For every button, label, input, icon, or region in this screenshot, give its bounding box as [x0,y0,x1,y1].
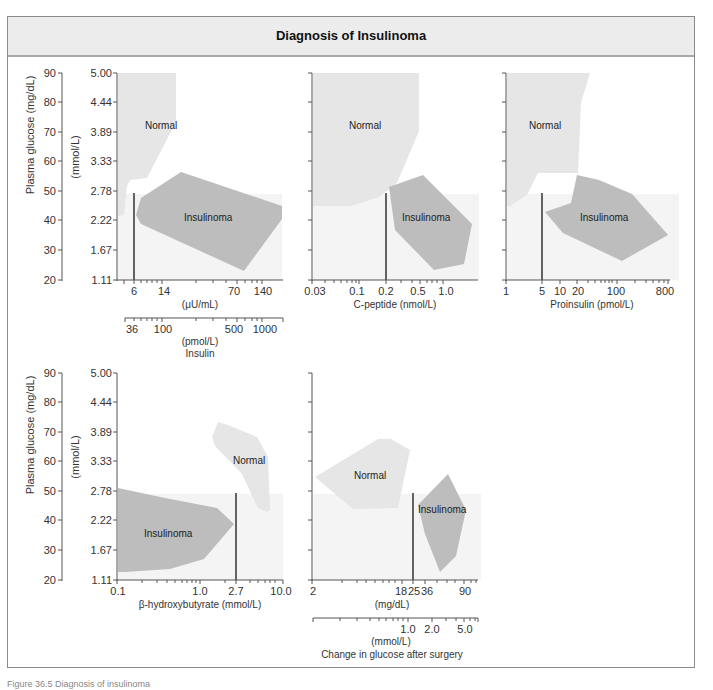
svg-text:1.11: 1.11 [91,574,112,586]
svg-text:Insulinoma: Insulinoma [418,504,467,515]
svg-text:2.7: 2.7 [228,585,243,597]
svg-text:Normal: Normal [233,455,265,466]
svg-text:1.67: 1.67 [91,244,112,256]
svg-text:1.0: 1.0 [438,285,453,297]
svg-text:20: 20 [572,285,584,297]
svg-text:1000: 1000 [253,323,277,335]
svg-text:0.5: 0.5 [410,285,425,297]
svg-text:Insulinoma: Insulinoma [402,212,451,223]
svg-text:80: 80 [44,96,56,108]
svg-text:2: 2 [310,585,316,597]
svg-text:2.78: 2.78 [91,485,112,497]
svg-text:1.0: 1.0 [400,623,415,635]
svg-text:60: 60 [44,155,56,167]
svg-text:3.89: 3.89 [91,126,112,138]
svg-text:0.1: 0.1 [349,285,364,297]
svg-text:2.0: 2.0 [424,623,439,635]
svg-text:2.22: 2.22 [91,514,112,526]
svg-text:Insulinoma: Insulinoma [184,212,233,223]
svg-text:90: 90 [44,67,56,79]
panel-cpeptide: Normal Insulinoma 0.03 0.1 0.2 0.5 1.0 [304,73,479,310]
svg-text:500: 500 [225,323,243,335]
svg-text:(mmol/L): (mmol/L) [69,435,81,478]
svg-text:1.11: 1.11 [91,274,112,286]
svg-text:10.0: 10.0 [270,585,291,597]
svg-text:70: 70 [44,426,56,438]
svg-text:Insulinoma: Insulinoma [580,212,629,223]
svg-text:Normal: Normal [354,470,386,481]
panel-proinsulin: Normal Insulinoma 1 5 10 20 100 [502,73,679,310]
svg-text:70: 70 [44,126,56,138]
svg-text:5.00: 5.00 [91,367,112,379]
svg-text:Plasma glucose (mg/dL): Plasma glucose (mg/dL) [24,376,36,495]
svg-text:(μU/mL): (μU/mL) [182,299,218,310]
svg-text:Normal: Normal [529,120,561,131]
svg-text:20: 20 [44,574,56,586]
y-axis-label-mgdl: Plasma glucose (mg/dL) [24,76,36,195]
svg-text:140: 140 [254,285,272,297]
svg-text:3.33: 3.33 [91,155,112,167]
svg-text:1.67: 1.67 [91,544,112,556]
svg-text:5: 5 [539,285,545,297]
svg-text:2.78: 2.78 [91,185,112,197]
svg-text:100: 100 [607,285,625,297]
svg-text:C-peptide (nmol/L): C-peptide (nmol/L) [354,299,437,310]
panel-insulin: Normal Insulinoma 6 14 70 140 (μ [113,73,283,359]
svg-text:14: 14 [158,285,170,297]
svg-text:4.44: 4.44 [91,396,112,408]
svg-text:18: 18 [395,585,407,597]
svg-text:Normal: Normal [145,120,177,131]
svg-text:1: 1 [503,285,509,297]
svg-text:50: 50 [44,185,56,197]
svg-text:4.44: 4.44 [91,96,112,108]
svg-text:3.89: 3.89 [91,426,112,438]
chart-canvas: Plasma glucose (mg/dL) 90 80 70 60 50 40… [0,0,713,690]
svg-text:(mg/dL): (mg/dL) [375,599,409,610]
svg-text:50: 50 [44,485,56,497]
svg-text:6: 6 [131,285,137,297]
svg-text:Normal: Normal [349,120,381,131]
svg-text:β-hydroxybutyrate (mmol/L): β-hydroxybutyrate (mmol/L) [139,599,261,610]
panel-glucose-change-title: Change in glucose after surgery [321,649,463,660]
svg-text:36: 36 [126,323,138,335]
svg-text:800: 800 [656,285,674,297]
svg-text:(mmol/L): (mmol/L) [371,636,410,647]
figure-caption: Figure 36.5 Diagnosis of insulinoma [7,679,707,690]
svg-text:0.1: 0.1 [110,585,125,597]
svg-text:100: 100 [154,323,172,335]
svg-text:Insulinoma: Insulinoma [144,528,193,539]
panel-bhb: Normal Insulinoma 0.1 1.0 2.7 10.0 [110,373,291,610]
y-axis-label-mmol: (mmol/L) [69,135,81,178]
svg-text:90: 90 [44,367,56,379]
y-axis-mmol-row2: (mmol/L) 5.00 4.44 3.89 3.33 2.78 2.22 1… [69,367,112,586]
svg-text:70: 70 [228,285,240,297]
svg-text:5.0: 5.0 [457,623,472,635]
svg-text:3.33: 3.33 [91,455,112,467]
svg-text:30: 30 [44,244,56,256]
svg-text:(pmol/L): (pmol/L) [182,336,219,347]
svg-text:5.00: 5.00 [91,67,112,79]
panel-glucose-change: Normal Insulinoma 2 18 25 36 90 [308,373,481,660]
svg-text:40: 40 [44,214,56,226]
svg-text:90: 90 [459,585,471,597]
svg-text:2.22: 2.22 [91,214,112,226]
svg-text:Proinsulin (pmol/L): Proinsulin (pmol/L) [550,299,633,310]
svg-text:25: 25 [408,585,420,597]
svg-text:0.2: 0.2 [378,285,393,297]
svg-text:1.0: 1.0 [192,585,207,597]
svg-text:30: 30 [44,544,56,556]
y-axis-mgdl-row2: Plasma glucose (mg/dL) 90 80 70 60 50 40… [24,367,62,586]
svg-text:10: 10 [554,285,566,297]
svg-text:36: 36 [421,585,433,597]
panel-insulin-title: Insulin [186,348,215,359]
svg-text:0.03: 0.03 [304,285,325,297]
svg-text:60: 60 [44,455,56,467]
svg-text:80: 80 [44,396,56,408]
y-axis-mgdl-row1: Plasma glucose (mg/dL) 90 80 70 60 50 40… [24,67,62,286]
svg-text:40: 40 [44,514,56,526]
y-axis-mmol-row1: (mmol/L) 5.00 4.44 3.89 3.33 2.78 2.22 1… [69,67,112,286]
svg-text:20: 20 [44,274,56,286]
